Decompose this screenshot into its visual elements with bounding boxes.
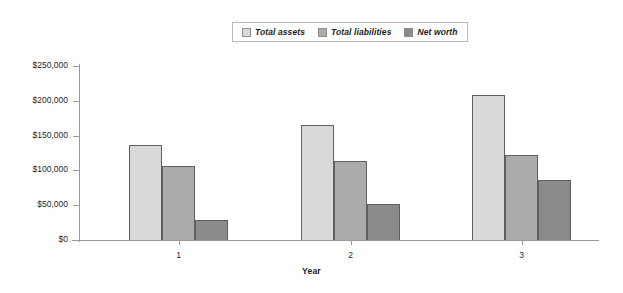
y-axis-tick-label: $100,000 — [33, 164, 68, 174]
bar-chart: Total assetsTotal liabilitiesNet worth Y… — [0, 0, 623, 293]
legend-entry[interactable]: Net worth — [404, 27, 457, 37]
bar[interactable] — [301, 125, 334, 240]
x-axis-tick-mark — [179, 241, 180, 245]
legend-swatch-icon — [242, 28, 251, 37]
y-axis-tick-label: $0 — [59, 234, 68, 244]
chart-legend: Total assetsTotal liabilitiesNet worth — [232, 22, 468, 42]
bar-group — [129, 66, 228, 240]
bar[interactable] — [195, 220, 228, 240]
legend-label: Total assets — [255, 27, 305, 37]
bar-group — [301, 66, 400, 240]
x-axis-title: Year — [0, 266, 623, 276]
bar[interactable] — [538, 180, 571, 240]
legend-swatch-icon — [318, 28, 327, 37]
bar[interactable] — [162, 166, 195, 240]
y-axis-tick-mark — [73, 240, 79, 241]
plot-area — [79, 66, 593, 240]
x-axis-tick-mark — [351, 241, 352, 245]
x-axis-tick-label: 3 — [502, 250, 542, 260]
y-axis-tick-label: $250,000 — [33, 60, 68, 70]
legend-entry[interactable]: Total liabilities — [318, 27, 391, 37]
legend-entry[interactable]: Total assets — [242, 27, 305, 37]
y-axis-tick-mark — [73, 101, 79, 102]
legend-label: Total liabilities — [331, 27, 391, 37]
bar[interactable] — [129, 145, 162, 240]
y-axis-tick-mark — [73, 205, 79, 206]
x-axis-line — [72, 240, 599, 241]
y-axis-tick-label: $150,000 — [33, 130, 68, 140]
y-axis-tick-mark — [73, 66, 79, 67]
bar[interactable] — [367, 204, 400, 240]
bar[interactable] — [334, 161, 367, 240]
legend-label: Net worth — [417, 27, 457, 37]
x-axis-tick-label: 1 — [159, 250, 199, 260]
bar-group — [472, 66, 571, 240]
y-axis-tick-mark — [73, 136, 79, 137]
y-axis-tick-label: $50,000 — [37, 199, 68, 209]
x-axis-tick-mark — [522, 241, 523, 245]
bar[interactable] — [472, 95, 505, 240]
y-axis-tick-label: $200,000 — [33, 95, 68, 105]
bar[interactable] — [505, 155, 538, 240]
y-axis-tick-mark — [73, 170, 79, 171]
legend-swatch-icon — [404, 28, 413, 37]
x-axis-tick-label: 2 — [331, 250, 371, 260]
